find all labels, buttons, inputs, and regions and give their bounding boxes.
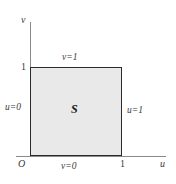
edge-label-top: v=1 xyxy=(62,53,77,63)
u-axis-line xyxy=(16,156,166,157)
figure-canvas: v u O 1 1 S v=1 v=0 u=0 u=1 xyxy=(0,0,176,184)
edge-label-left: u=0 xyxy=(5,103,21,113)
v-axis-tick-1: 1 xyxy=(21,62,26,72)
edge-label-right: u=1 xyxy=(127,106,143,116)
edge-label-bottom: v=0 xyxy=(61,162,76,172)
region-label-s: S xyxy=(71,103,78,115)
u-axis-tick-1: 1 xyxy=(120,159,125,169)
v-axis-label: v xyxy=(21,15,25,25)
origin-label: O xyxy=(18,159,25,169)
u-axis-label: u xyxy=(160,159,165,169)
